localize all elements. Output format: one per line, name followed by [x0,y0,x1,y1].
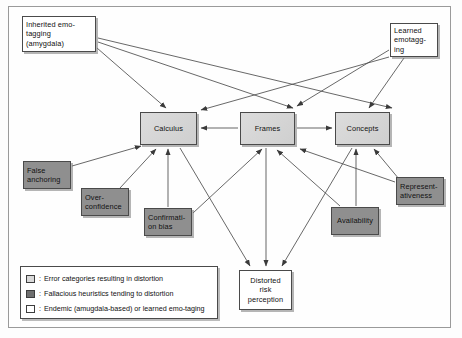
diagram-figure: Inherited emo- tagging (amygdala) Learne… [0,0,462,338]
node-label: Frames [253,124,283,133]
node-calculus[interactable]: Calculus [140,112,197,145]
node-false-anchoring[interactable]: False anchoring [23,161,71,189]
legend-separator: : [39,289,41,298]
legend-label: Endemic (amugdala-based) or learned emo-… [44,304,205,313]
legend-label: Error categories resulting in distortion [44,274,163,283]
legend-label: Fallacious heuristics tending to distort… [44,289,173,298]
node-label: Confirmati- on bias [145,213,187,231]
node-overconfidence[interactable]: Over- confidence [81,188,129,216]
node-distorted-risk-perception[interactable]: Distorted risk perception [239,270,292,310]
node-label: Availability [335,216,375,225]
legend: : Error categories resulting in distorti… [20,266,218,319]
node-availability[interactable]: Availability [331,207,379,235]
node-inherited-emotagging[interactable]: Inherited emo- tagging (amygdala) [22,16,96,52]
node-label: Represent- ativeness [397,182,440,200]
legend-row: : Fallacious heuristics tending to disto… [26,286,212,301]
legend-swatch-white [26,305,35,313]
legend-swatch-dark-gray [26,290,35,298]
node-label: Calculus [152,124,185,133]
node-label: Learned emotagg- ing [391,26,428,54]
node-label: Distorted risk perception [246,276,286,304]
node-concepts[interactable]: Concepts [335,112,390,145]
legend-row: : Endemic (amugdala-based) or learned em… [26,301,212,316]
node-label: False anchoring [24,166,62,184]
node-label: Over- confidence [82,193,124,211]
node-confirmation-bias[interactable]: Confirmati- on bias [144,208,192,236]
node-label: Concepts [344,124,380,133]
legend-separator: : [39,274,41,283]
legend-separator: : [39,304,41,313]
node-representativeness[interactable]: Represent- ativeness [396,177,444,205]
node-label: Inherited emo- tagging (amygdala) [23,20,77,48]
node-learned-emotagging[interactable]: Learned emotagg- ing [390,23,438,57]
legend-row: : Error categories resulting in distorti… [26,271,212,286]
node-frames[interactable]: Frames [240,112,295,145]
legend-swatch-light-gray [26,275,35,283]
